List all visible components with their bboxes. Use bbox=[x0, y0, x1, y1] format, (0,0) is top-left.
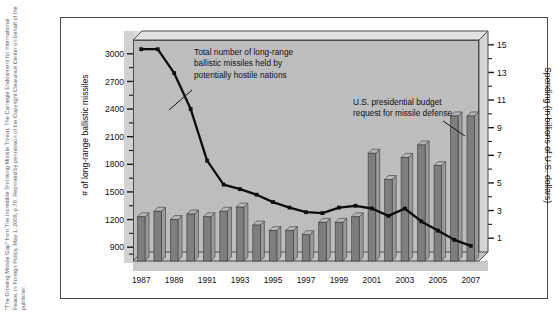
line-marker bbox=[469, 244, 473, 248]
line-marker bbox=[321, 211, 325, 215]
annotation-line-series: potentially hostile nations bbox=[194, 70, 287, 80]
bar bbox=[253, 221, 265, 261]
x-axis-tick: 1995 bbox=[264, 275, 283, 285]
bar bbox=[418, 141, 430, 261]
line-marker bbox=[205, 159, 209, 163]
annotation-line-series: Total number of long-range bbox=[194, 47, 294, 57]
y-axis-left-tick: 2400 bbox=[105, 104, 124, 114]
bar bbox=[467, 112, 479, 261]
line-marker bbox=[189, 107, 193, 111]
y-axis-left-tick: 2100 bbox=[105, 132, 124, 142]
x-axis-tick: 1987 bbox=[132, 275, 151, 285]
annotation-line-series: ballistic missiles held by bbox=[194, 58, 283, 68]
x-axis-tick: 1999 bbox=[330, 275, 349, 285]
bar bbox=[170, 216, 182, 261]
y-axis-left-tick: 1800 bbox=[105, 159, 124, 169]
line-marker bbox=[370, 207, 374, 211]
y-axis-right-tick: 11 bbox=[497, 95, 506, 105]
line-marker bbox=[436, 229, 440, 233]
chart-frame: 9001200150018002100240027003000135791113… bbox=[60, 17, 548, 299]
y-axis-left-title: # of long-range ballistic missiles bbox=[80, 45, 90, 225]
y-axis-right-tick: 5 bbox=[497, 178, 502, 188]
annotation-bar-series: request for missile defense bbox=[353, 108, 453, 118]
bar bbox=[368, 149, 380, 261]
y-axis-right-tick: 1 bbox=[497, 233, 502, 243]
line-marker bbox=[255, 193, 259, 197]
line-marker bbox=[337, 206, 341, 210]
bar bbox=[319, 218, 331, 261]
x-axis-tick: 2001 bbox=[363, 275, 382, 285]
x-axis-tick: 2007 bbox=[461, 275, 480, 285]
bar bbox=[187, 210, 199, 261]
y-axis-right-tick: 3 bbox=[497, 206, 502, 216]
y-axis-right-tick: 7 bbox=[497, 150, 502, 160]
bar bbox=[236, 203, 248, 261]
line-marker bbox=[271, 200, 275, 204]
y-axis-left-tick: 900 bbox=[110, 242, 125, 252]
bar bbox=[385, 176, 397, 261]
y-axis-left-tick: 1200 bbox=[105, 215, 124, 225]
y-axis-left-tick: 2700 bbox=[105, 77, 124, 87]
x-axis-tick: 2003 bbox=[396, 275, 415, 285]
line-marker bbox=[238, 187, 242, 191]
line-marker bbox=[156, 47, 160, 51]
bar bbox=[434, 162, 446, 261]
line-marker bbox=[386, 214, 390, 218]
x-axis-tick: 1993 bbox=[231, 275, 250, 285]
line-marker bbox=[172, 71, 176, 75]
y-axis-right-tick: 13 bbox=[497, 68, 507, 78]
credit-sidebar: "The Growing Missile Gap" from The Incre… bbox=[0, 0, 58, 316]
x-axis-tick: 1997 bbox=[297, 275, 316, 285]
chart-canvas: 9001200150018002100240027003000135791113… bbox=[61, 18, 547, 298]
bar bbox=[203, 213, 215, 261]
bar bbox=[401, 153, 413, 261]
line-marker bbox=[354, 204, 358, 208]
line-marker bbox=[452, 238, 456, 242]
line-marker bbox=[403, 207, 407, 211]
bar bbox=[269, 227, 281, 261]
x-axis-tick: 1989 bbox=[165, 275, 184, 285]
bar bbox=[302, 231, 314, 261]
line-marker bbox=[222, 183, 226, 187]
y-axis-left-tick: 1500 bbox=[105, 187, 124, 197]
bar bbox=[352, 213, 364, 261]
bar bbox=[220, 207, 232, 261]
line-marker bbox=[304, 210, 308, 214]
bar bbox=[154, 207, 166, 261]
y-axis-right-title: Spending (in billions of U.S. dollars) bbox=[543, 40, 553, 230]
x-axis-tick: 2005 bbox=[428, 275, 447, 285]
annotation-bar-series: U.S. presidential budget bbox=[353, 97, 442, 107]
bar bbox=[137, 213, 149, 261]
y-axis-left-tick: 3000 bbox=[105, 49, 124, 59]
bar bbox=[286, 227, 298, 261]
y-axis-right-tick: 15 bbox=[497, 40, 507, 50]
bar bbox=[335, 218, 347, 261]
line-marker bbox=[419, 220, 423, 224]
x-axis-tick: 1991 bbox=[198, 275, 217, 285]
line-marker bbox=[139, 47, 143, 51]
line-marker bbox=[288, 206, 292, 210]
y-axis-right-tick: 9 bbox=[497, 123, 502, 133]
plot-area: 9001200150018002100240027003000135791113… bbox=[61, 18, 547, 298]
credit-text: "The Growing Missile Gap" from The Incre… bbox=[0, 0, 58, 316]
